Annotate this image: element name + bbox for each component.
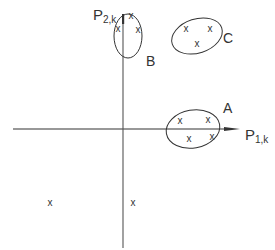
x-axis-label-main: P: [245, 126, 255, 143]
y-axis: [122, 14, 124, 248]
cluster-label-b: B: [146, 54, 155, 68]
point-a3: x: [187, 134, 192, 144]
x-axis-arrow-icon: [224, 127, 240, 131]
point-c2: x: [208, 24, 213, 34]
cluster-c-boundary: [167, 12, 227, 60]
point-b3: x: [136, 25, 141, 35]
point-c3: x: [195, 39, 200, 49]
x-axis: [13, 127, 240, 131]
x-axis-label-sub: 1,k: [255, 134, 268, 145]
point-c1: x: [184, 24, 189, 34]
x-axis-label: P1,k: [245, 127, 268, 145]
y-axis-label: P2,k: [93, 7, 116, 25]
outlier-point-2: x: [131, 198, 136, 208]
point-a4: x: [210, 132, 215, 142]
point-b2: x: [116, 24, 121, 34]
outlier-point-1: x: [48, 198, 53, 208]
point-a2: x: [206, 115, 211, 125]
point-b1: x: [129, 11, 134, 21]
y-axis-label-main: P: [93, 6, 103, 23]
point-a1: x: [178, 116, 183, 126]
cluster-label-a: A: [223, 101, 232, 115]
y-axis-label-sub: 2,k: [103, 14, 116, 25]
cluster-diagram: [0, 0, 275, 250]
cluster-label-c: C: [223, 31, 233, 45]
